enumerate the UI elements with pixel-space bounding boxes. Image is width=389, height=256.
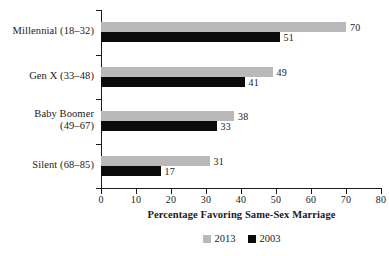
category-label: Millennial (18–32)	[0, 25, 94, 37]
y-axis-tick	[96, 10, 101, 11]
x-axis-tick-label: 80	[369, 194, 389, 205]
legend-item-2013: 2013	[203, 233, 236, 244]
legend-label: 2003	[260, 233, 281, 244]
x-axis-tick-label: 70	[334, 194, 358, 205]
y-axis-tick	[96, 99, 101, 100]
bar-value-label: 33	[221, 122, 231, 132]
bar-value-label: 38	[238, 112, 248, 122]
bar-chart: 01020304050607080 Millennial (18–32)Gen …	[0, 0, 389, 256]
bar-2013-4	[101, 156, 210, 166]
bar-2013-3	[101, 111, 234, 121]
bar-value-label: 31	[214, 157, 224, 167]
y-axis-tick	[96, 144, 101, 145]
legend-label: 2013	[215, 233, 236, 244]
category-label-line: Millennial (18–32)	[0, 25, 94, 37]
bar-2003-1	[101, 32, 280, 42]
bar-value-label: 51	[284, 33, 294, 43]
legend-swatch-icon	[203, 235, 211, 243]
bar-2013-2	[101, 67, 273, 77]
category-label-line: Baby Boomer	[0, 108, 94, 120]
bar-value-label: 49	[277, 68, 287, 78]
bar-value-label: 17	[165, 167, 175, 177]
x-axis-tick-label: 20	[159, 194, 183, 205]
bar-value-label: 70	[350, 23, 360, 33]
bar-value-label: 41	[249, 78, 259, 88]
legend-item-2003: 2003	[248, 233, 281, 244]
category-label-line: (49–67)	[0, 120, 94, 132]
x-axis-tick-label: 40	[229, 194, 253, 205]
x-axis-tick-label: 50	[264, 194, 288, 205]
bar-2003-4	[101, 166, 161, 176]
category-label: Silent (68–85)	[0, 159, 94, 171]
bar-2003-2	[101, 77, 245, 87]
x-axis-tick-label: 30	[194, 194, 218, 205]
category-label-line: Silent (68–85)	[0, 159, 94, 171]
legend-swatch-icon	[248, 235, 256, 243]
x-axis-title: Percentage Favoring Same-Sex Marriage	[101, 209, 382, 220]
chart-legend: 20132003	[101, 233, 382, 244]
x-axis-tick-label: 60	[299, 194, 323, 205]
category-label: Gen X (33–48)	[0, 70, 94, 82]
x-axis-tick-label: 0	[89, 194, 113, 205]
bar-2003-3	[101, 121, 217, 131]
x-axis-tick-label: 10	[124, 194, 148, 205]
category-label-line: Gen X (33–48)	[0, 70, 94, 82]
y-axis-tick	[96, 55, 101, 56]
bar-2013-1	[101, 22, 346, 32]
category-label: Baby Boomer(49–67)	[0, 108, 94, 132]
